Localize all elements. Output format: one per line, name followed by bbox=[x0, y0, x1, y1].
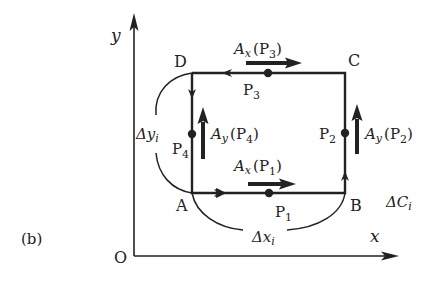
x-axis-label: x bbox=[370, 226, 380, 246]
line-integral-diagram: y x O (b) A B C D P1 P2 P3 P4 Ax(P1) Ax(… bbox=[0, 0, 438, 296]
point-p3-label: P3 bbox=[243, 81, 260, 102]
delta-c-label: ΔCi bbox=[385, 193, 412, 213]
vector-ay-p2-arrow-icon bbox=[352, 104, 363, 154]
delta-x-label: Δxi bbox=[251, 228, 275, 248]
corner-b-label: B bbox=[350, 196, 362, 215]
vector-ax-p1-arrow-icon bbox=[248, 179, 296, 190]
x-axis bbox=[134, 252, 399, 261]
delta-y-label: Δyi bbox=[135, 125, 159, 145]
corner-d-label: D bbox=[174, 52, 187, 71]
vector-ay-p4-arrow-icon bbox=[198, 107, 209, 159]
vector-ax-p3-label: Ax(P3) bbox=[232, 40, 282, 61]
dx-brace-right bbox=[287, 193, 345, 230]
point-p4-dot bbox=[188, 130, 196, 138]
point-p4-label: P4 bbox=[172, 140, 189, 161]
corner-c-label: C bbox=[348, 51, 360, 70]
vector-ay-p2-label: Ay(P2) bbox=[363, 125, 413, 146]
vector-ay-p4-label: Ay(P4) bbox=[209, 125, 259, 146]
vector-ax-p1-label: Ax(P1) bbox=[232, 157, 282, 178]
point-p2-label: P2 bbox=[319, 125, 336, 146]
point-p3-dot bbox=[264, 69, 272, 77]
point-p2-dot bbox=[341, 129, 349, 137]
dx-brace-left bbox=[192, 193, 243, 230]
figure-label: (b) bbox=[21, 230, 42, 248]
origin-label: O bbox=[114, 248, 127, 267]
corner-a-label: A bbox=[175, 196, 188, 215]
point-p1-dot bbox=[265, 189, 273, 197]
y-axis-label: y bbox=[110, 25, 121, 45]
point-p1-label: P1 bbox=[275, 203, 292, 224]
dy-brace-upper bbox=[156, 73, 192, 115]
